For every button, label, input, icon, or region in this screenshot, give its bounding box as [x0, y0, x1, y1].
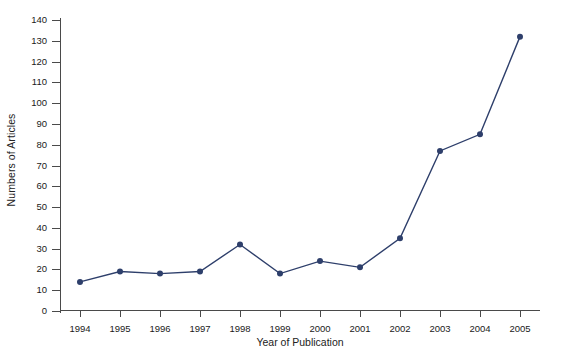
y-axis-tick-label: 70: [36, 159, 47, 172]
y-axis-tick-label: 140: [31, 13, 47, 26]
x-axis-tick: [360, 311, 361, 317]
y-axis-tick: 10: [52, 290, 60, 291]
data-point-marker: [117, 269, 123, 275]
y-axis-tick: 80: [52, 145, 60, 146]
y-axis-tick-label: 40: [36, 221, 47, 234]
data-point-marker: [237, 241, 243, 247]
y-axis-tick-label: 120: [31, 55, 47, 68]
y-axis-tick: 90: [52, 124, 60, 125]
x-axis-tick-label: 2000: [309, 323, 330, 334]
y-axis-tick-label: 0: [42, 304, 47, 317]
data-point-marker: [77, 279, 83, 285]
y-axis-tick: 30: [52, 249, 60, 250]
x-axis-tick-label: 2005: [509, 323, 530, 334]
data-point-marker: [357, 264, 363, 270]
y-axis-tick-label: 10: [36, 283, 47, 296]
x-axis-tick: [400, 311, 401, 317]
y-axis-title: Numbers of Articles: [0, 0, 22, 320]
plot-area: 0102030405060708090100110120130140 19941…: [60, 20, 540, 311]
x-axis-tick-label: 1994: [69, 323, 90, 334]
y-axis-tick: 20: [52, 269, 60, 270]
y-axis-tick: 110: [52, 82, 60, 83]
y-axis-tick-label: 60: [36, 179, 47, 192]
x-axis-tick: [480, 311, 481, 317]
data-point-marker: [277, 271, 283, 277]
x-axis-tick: [160, 311, 161, 317]
x-axis-tick-label: 2004: [469, 323, 490, 334]
data-point-marker: [437, 148, 443, 154]
x-axis-tick-label: 1997: [189, 323, 210, 334]
data-point-marker: [397, 235, 403, 241]
y-axis-tick-label: 110: [32, 75, 47, 88]
data-point-marker: [477, 131, 483, 137]
x-axis-tick: [280, 311, 281, 317]
y-axis-tick: 130: [52, 41, 60, 42]
x-axis-tick: [520, 311, 521, 317]
x-axis-tick-label: 2001: [349, 323, 370, 334]
y-axis-tick: 140: [52, 20, 60, 21]
x-axis-tick: [80, 311, 81, 317]
x-axis-tick-label: 1995: [109, 323, 130, 334]
y-axis-tick: 50: [52, 207, 60, 208]
x-axis-tick: [240, 311, 241, 317]
data-point-marker: [157, 271, 163, 277]
data-point-marker: [197, 269, 203, 275]
x-axis-tick: [120, 311, 121, 317]
x-axis-tick-label: 1996: [149, 323, 170, 334]
y-axis-tick-label: 20: [36, 262, 47, 275]
y-axis-tick-label: 100: [31, 96, 47, 109]
x-axis-tick-label: 1999: [269, 323, 290, 334]
y-axis-tick-label: 130: [31, 34, 47, 47]
y-axis-tick: 70: [52, 166, 60, 167]
y-axis-tick: 60: [52, 186, 60, 187]
y-axis-tick: 100: [52, 103, 60, 104]
data-point-marker: [317, 258, 323, 264]
y-axis-tick-label: 50: [36, 200, 47, 213]
x-axis-tick-label: 1998: [229, 323, 250, 334]
data-point-marker: [517, 34, 523, 40]
y-axis-tick: 120: [52, 62, 60, 63]
y-axis-tick-label: 80: [36, 138, 47, 151]
series-line: [80, 37, 520, 282]
y-axis-tick: 40: [52, 228, 60, 229]
y-axis-tick-label: 90: [36, 117, 47, 130]
x-axis-tick-label: 2003: [429, 323, 450, 334]
y-axis-tick: 0: [52, 311, 60, 312]
figure-caption: [8, 351, 559, 355]
line-chart-figure: Numbers of Articles 01020304050607080901…: [0, 0, 567, 355]
x-axis-tick: [320, 311, 321, 317]
x-axis-tick: [440, 311, 441, 317]
x-axis-title: Year of Publication: [60, 336, 540, 348]
x-axis-tick-label: 2002: [389, 323, 410, 334]
y-axis-tick-label: 30: [36, 242, 47, 255]
y-axis-title-label: Numbers of Articles: [5, 114, 17, 207]
x-axis-title-label: Year of Publication: [256, 336, 343, 348]
x-axis-tick: [200, 311, 201, 317]
data-series: [60, 20, 540, 311]
